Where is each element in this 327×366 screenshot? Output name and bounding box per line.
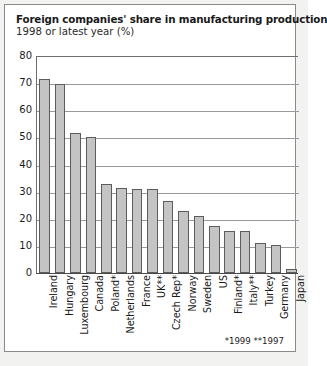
x-axis-tick-label: Netherlands	[125, 275, 136, 333]
x-axis-tick-label: Poland*	[110, 275, 121, 312]
x-axis-tick-label: Finland*	[233, 275, 244, 314]
x-axis-tick-label: US	[218, 275, 229, 288]
bar	[116, 188, 127, 273]
bar	[240, 231, 251, 273]
x-axis-tick-label: Japan	[295, 275, 306, 302]
x-axis-tick-label: Sweden	[202, 275, 213, 313]
gridline	[37, 111, 299, 112]
bar	[224, 231, 235, 273]
chart-figure: Foreign companies' share in manufacturin…	[0, 0, 308, 366]
y-axis-tick-label: 80	[8, 51, 32, 61]
chart-footnote: *1999 **1997	[225, 336, 284, 346]
x-axis-tick-label: Norway	[187, 275, 198, 311]
y-axis-tick-label: 20	[8, 214, 32, 224]
bar	[255, 243, 266, 273]
x-axis-tick-label: UK**	[156, 275, 167, 298]
bar	[178, 211, 189, 273]
y-axis-tick-label: 50	[8, 132, 32, 142]
y-axis-tick-label: 60	[8, 105, 32, 115]
y-axis-tick-label: 0	[8, 268, 32, 278]
bar	[86, 137, 97, 273]
y-axis-tick-label: 40	[8, 160, 32, 170]
bar	[147, 189, 158, 273]
x-axis-tick-label: Luxembourg	[79, 275, 90, 335]
x-axis-tick-label: Germany	[279, 275, 290, 319]
x-axis-tick-label: Turkey	[264, 275, 275, 306]
x-axis-tick-label: France	[141, 275, 152, 307]
y-axis-tick-label: 30	[8, 187, 32, 197]
bar	[163, 201, 174, 273]
chart-frame: Foreign companies' share in manufacturin…	[4, 4, 296, 352]
x-axis-tick-label: Hungary	[64, 275, 75, 316]
bar	[70, 133, 81, 273]
x-axis-tick-label: Ireland	[48, 275, 59, 308]
y-axis-tick-label: 70	[8, 78, 32, 88]
chart-title: Foreign companies' share in manufacturin…	[16, 13, 327, 25]
bar	[39, 79, 50, 273]
x-axis-tick-label: Canada	[94, 275, 105, 312]
bar	[209, 226, 220, 273]
bar	[132, 189, 143, 273]
y-axis-tick-label: 10	[8, 241, 32, 251]
x-axis-tick-label: Czech Rep*	[171, 275, 182, 330]
bar	[194, 216, 205, 273]
gridline	[37, 84, 299, 85]
x-axis-baseline	[36, 273, 298, 274]
bar	[271, 245, 282, 273]
plot-area	[36, 56, 298, 273]
chart-subtitle: 1998 or latest year (%)	[16, 26, 134, 37]
x-axis-tick-label: Italy**	[248, 275, 259, 305]
bar	[55, 84, 66, 273]
bar	[101, 184, 112, 274]
y-axis-tick-labels: 01020304050607080	[5, 5, 32, 366]
